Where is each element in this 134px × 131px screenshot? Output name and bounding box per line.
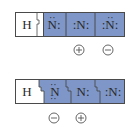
lone-pair-dots: :	[115, 17, 119, 32]
lone-pair-dots: :	[86, 84, 90, 99]
hydrogen-atom: H	[19, 12, 35, 37]
nitrogen-atom-2: N:	[72, 79, 94, 104]
lone-pair-dots: :	[118, 84, 122, 99]
nitrogen-atom-1: ··N:	[43, 12, 65, 37]
lone-pair-dots: :	[86, 17, 90, 32]
resonance-structure-1: H ··N: :N: ··:N:	[15, 12, 125, 37]
lone-pair-dots: ··	[49, 5, 56, 30]
hydrogen-atom: H	[19, 79, 35, 104]
nitrogen-atom-3: ··:N:	[97, 12, 123, 37]
nitrogen-atom-1: ··N··	[45, 79, 65, 104]
lone-pair-dots: :	[57, 17, 61, 32]
resonance-structure-2: H ··N·· N: :N:	[15, 79, 125, 104]
lone-pair-dots: ··	[107, 5, 114, 30]
positive-charge-icon	[75, 112, 87, 124]
lone-pair-dots: ··	[50, 86, 57, 111]
negative-charge-icon	[48, 112, 60, 124]
positive-charge-icon	[73, 44, 85, 56]
nitrogen-atom-3: :N:	[101, 79, 125, 104]
nitrogen-atom-2: :N:	[68, 12, 94, 37]
negative-charge-icon	[102, 44, 114, 56]
